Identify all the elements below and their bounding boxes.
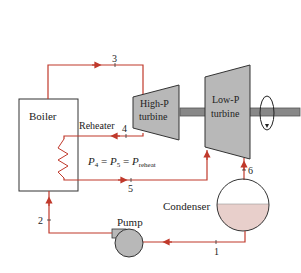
pressure-equation: P4 = P5 = Preheat	[87, 155, 156, 169]
state-1-label: 1	[214, 246, 219, 257]
state-2-label: 2	[38, 215, 43, 226]
low-p-turbine-label-2: turbine	[211, 108, 240, 119]
high-p-turbine-label-1: High-P	[140, 98, 169, 109]
reheater-label: Reheater	[79, 120, 115, 131]
boiler-label: Boiler	[29, 110, 57, 122]
condenser-label: Condenser	[163, 200, 210, 212]
state-6-label: 6	[248, 165, 253, 176]
pipe-state-1	[141, 231, 245, 242]
state-5-label: 5	[128, 183, 133, 194]
state-3-label: 3	[112, 53, 117, 64]
low-p-turbine-label-1: Low-P	[212, 94, 240, 105]
pipe-state-3	[48, 65, 143, 99]
condensate-fill	[216, 204, 270, 234]
pump	[115, 229, 143, 257]
pump-label: Pump	[117, 216, 143, 228]
reheat-cycle-diagram: Boiler Reheater 3 4 5 P4 = P5 = Preheat …	[0, 0, 301, 273]
state-4-label: 4	[122, 123, 127, 134]
pipe-state-2	[49, 191, 112, 233]
high-p-turbine-label-2: turbine	[139, 111, 168, 122]
